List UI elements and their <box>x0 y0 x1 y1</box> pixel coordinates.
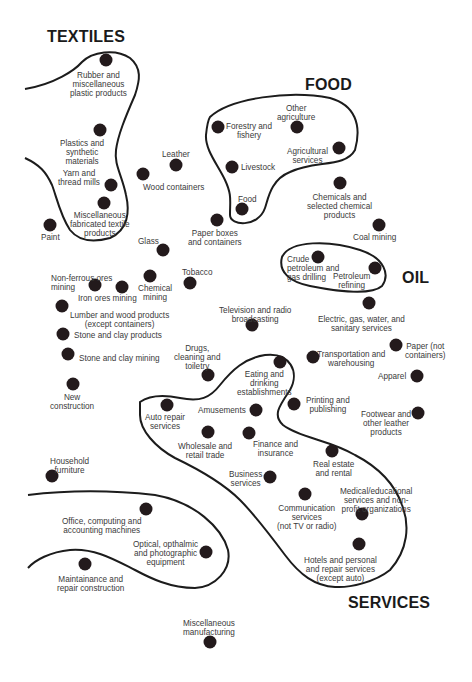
label-rubber: Rubber and miscellaneous plastic product… <box>70 71 127 98</box>
label-crude-petroleum: Crude petroleum and gas drilling <box>287 255 339 282</box>
dot-paper-not-containers <box>390 339 403 352</box>
dot-chemical-mining <box>144 270 157 283</box>
cluster-title-oil: OIL <box>402 269 429 287</box>
label-coal-mining: Coal mining <box>353 233 396 242</box>
dot-paper-boxes <box>211 214 224 227</box>
dot-maintenance <box>79 558 92 571</box>
dot-chemicals-selected <box>334 177 347 190</box>
label-agricultural-services: Agricultural services <box>287 147 328 165</box>
dot-finance <box>243 427 256 440</box>
dot-wholesale <box>202 426 215 439</box>
label-chemical-mining: Chemical mining <box>138 284 172 302</box>
dot-agricultural-services <box>333 142 346 155</box>
label-wood-containers: Wood containers <box>143 183 204 192</box>
dot-amusements <box>250 404 263 417</box>
dot-business-services <box>264 471 277 484</box>
label-wholesale: Wholesale and retail trade <box>178 442 232 460</box>
label-medical: Medical/educational services and non- pr… <box>340 487 412 514</box>
industry-space-diagram: TEXTILES FOOD OIL SERVICES Rubber and <box>0 0 472 682</box>
label-paper-not-containers: Paper (not containers) <box>405 342 446 360</box>
dot-real-estate <box>326 445 339 458</box>
label-auto-repair: Auto repair services <box>145 413 185 431</box>
dot-yarn <box>105 179 118 192</box>
dot-iron-ores <box>116 281 129 294</box>
label-livestock: Livestock <box>241 163 275 172</box>
machinery-cluster-outline <box>28 491 229 588</box>
dot-communication <box>299 488 312 501</box>
label-amusements: Amusements <box>198 406 246 415</box>
dot-leather <box>170 159 183 172</box>
label-chemicals-selected: Chemicals and selected chemical products <box>307 193 372 220</box>
label-office-computing: Office, computing and accounting machine… <box>62 517 142 535</box>
label-misc-manufacturing: Miscellaneous manufacturing <box>183 619 235 637</box>
label-food: Food <box>238 195 257 204</box>
dot-livestock <box>226 161 239 174</box>
dot-coal-mining <box>373 219 386 232</box>
label-hotels: Hotels and personal and repair services … <box>304 556 377 583</box>
label-printing: Printing and publishing <box>306 396 350 414</box>
dot-plastics <box>94 124 107 137</box>
dot-petroleum-refining <box>369 262 382 275</box>
dot-paint <box>44 219 57 232</box>
label-petroleum-refining: Petroleum refining <box>333 272 370 290</box>
label-glass: Glass <box>138 237 159 246</box>
label-electric: Electric, gas, water, and sanitary servi… <box>318 315 405 333</box>
label-real-estate: Real estate and rental <box>313 460 354 478</box>
dot-lumber <box>56 300 69 313</box>
dot-footwear <box>412 407 425 420</box>
dot-office-computing <box>140 503 153 516</box>
label-business-services: Business services <box>229 470 262 488</box>
dot-optical <box>200 546 213 559</box>
label-optical: Optical, opthalmic and photographic equi… <box>133 540 198 567</box>
label-misc-textile: Miscellaneous fabricated textile product… <box>70 211 130 238</box>
dot-tobacco <box>184 277 197 290</box>
label-finance: Finance and insurance <box>253 440 298 458</box>
dot-food <box>236 203 249 216</box>
dot-printing <box>288 398 301 411</box>
label-tobacco: Tobacco <box>182 268 213 277</box>
dot-hotels <box>353 538 366 551</box>
dot-new-construction <box>67 378 80 391</box>
dot-stone-clay-mining <box>62 348 75 361</box>
dot-electric <box>363 297 376 310</box>
cluster-title-food: FOOD <box>305 76 352 94</box>
label-other-agriculture: Other agriculture <box>277 104 315 122</box>
dot-misc-textile <box>98 197 111 210</box>
label-paper-boxes: Paper boxes and containers <box>188 229 242 247</box>
dot-forestry <box>212 121 225 134</box>
dot-auto-repair <box>161 399 174 412</box>
label-apparel: Apparel <box>378 372 406 381</box>
label-yarn: Yarn and thread mills <box>58 169 100 187</box>
dot-eating <box>274 356 287 369</box>
label-tv-radio: Television and radio broadcasting <box>219 306 291 324</box>
label-drugs: Drugs, cleaning and toiletry <box>174 344 220 371</box>
label-household-furniture: Household furniture <box>50 457 89 475</box>
label-communication: Communication services (not TV or radio) <box>277 504 336 531</box>
label-eating: Eating and drinking establishments <box>237 370 292 397</box>
label-plastics: Plastics and synthetic materials <box>60 139 104 166</box>
label-transportation: Transportation and warehousing <box>317 350 385 368</box>
dot-other-agriculture <box>291 121 304 134</box>
label-forestry: Forestry and fishery <box>226 122 272 140</box>
label-stone-clay-products: Stone and clay products <box>74 331 162 340</box>
label-footwear: Footwear and other leather products <box>361 410 411 437</box>
cluster-title-textiles: TEXTILES <box>47 28 125 46</box>
label-leather: Leather <box>162 150 190 159</box>
label-iron-ores: Iron ores mining <box>78 294 137 303</box>
dot-rubber <box>100 54 113 67</box>
dot-stone-clay-products <box>57 328 70 341</box>
label-nonferrous: Non-ferrous ores mining <box>51 274 112 292</box>
cluster-title-services: SERVICES <box>348 594 430 612</box>
dot-misc-manufacturing <box>204 636 217 649</box>
label-stone-clay-mining: Stone and clay mining <box>79 354 160 363</box>
dot-wood-containers <box>137 168 150 181</box>
label-maintenance: Maintainance and repair construction <box>57 575 124 593</box>
dot-apparel <box>411 370 424 383</box>
label-lumber: Lumber and wood products (except contain… <box>70 311 169 329</box>
label-new-construction: New construction <box>50 393 94 411</box>
label-paint: Paint <box>41 233 60 242</box>
